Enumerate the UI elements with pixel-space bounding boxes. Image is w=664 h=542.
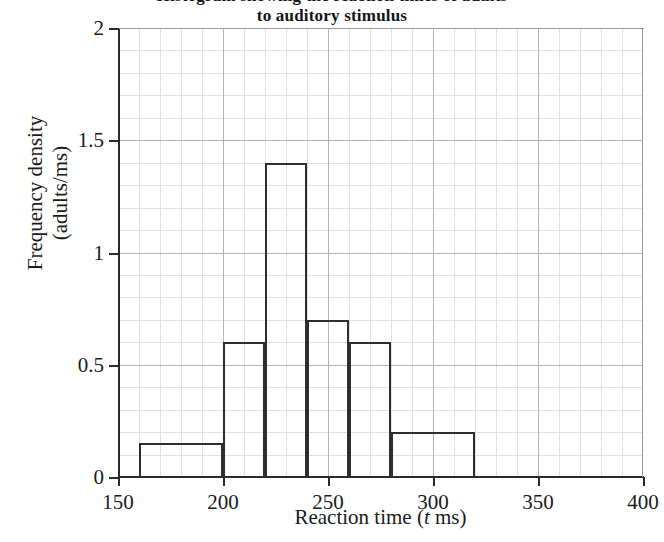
x-axis-tick-label: 400 xyxy=(627,490,659,515)
plot-area: 00.511.52 150200250300350400 xyxy=(118,28,643,477)
gridline-minor-horizontal xyxy=(118,208,643,209)
y-axis-tick xyxy=(109,365,119,367)
y-axis-tick-label: 1 xyxy=(94,240,105,265)
x-axis-title: Reaction time (t ms) xyxy=(118,505,643,530)
gridline-minor-horizontal xyxy=(118,95,643,96)
gridline-minor-horizontal xyxy=(118,320,643,321)
gridline-minor-horizontal xyxy=(118,118,643,119)
plot-frame-top xyxy=(118,28,644,29)
x-axis-tick xyxy=(118,477,120,486)
gridline-minor-horizontal xyxy=(118,297,643,298)
gridline-major-horizontal xyxy=(118,253,643,254)
x-axis-tick xyxy=(223,477,225,486)
y-axis-tick-label: 0.5 xyxy=(78,352,104,377)
y-axis-tick xyxy=(109,28,119,30)
x-axis-tick-label: 150 xyxy=(102,490,134,515)
plot-frame-right xyxy=(642,28,643,477)
x-axis-tick-label: 350 xyxy=(522,490,554,515)
gridline-minor-horizontal xyxy=(118,275,643,276)
x-axis-tick xyxy=(328,477,330,486)
y-axis-title: Frequency density (adults/ms) xyxy=(23,53,73,333)
y-axis-tick xyxy=(109,140,119,142)
histogram-bar xyxy=(307,320,349,478)
x-axis-tick xyxy=(538,477,540,486)
x-axis-tick-label: 300 xyxy=(417,490,449,515)
histogram-bar xyxy=(223,342,265,478)
histogram-bar xyxy=(349,342,391,478)
x-axis-tick-label: 200 xyxy=(207,490,239,515)
x-axis-tick xyxy=(643,477,645,486)
histogram-bar xyxy=(391,432,475,478)
gridline-minor-horizontal xyxy=(118,230,643,231)
y-axis-tick-label: 1.5 xyxy=(78,128,104,153)
x-axis-tick xyxy=(433,477,435,486)
gridline-minor-horizontal xyxy=(118,163,643,164)
histogram-bar xyxy=(265,163,307,478)
histogram-bar xyxy=(139,443,223,478)
gridline-minor-horizontal xyxy=(118,50,643,51)
y-axis-tick-label: 2 xyxy=(94,16,105,41)
y-axis-tick-label: 0 xyxy=(94,465,105,490)
gridline-minor-horizontal xyxy=(118,185,643,186)
histogram-figure: Histogram showing the reaction times of … xyxy=(0,0,664,542)
y-axis-tick xyxy=(109,253,119,255)
x-axis-tick-label: 250 xyxy=(312,490,344,515)
gridline-major-horizontal xyxy=(118,140,643,141)
gridline-minor-horizontal xyxy=(118,73,643,74)
